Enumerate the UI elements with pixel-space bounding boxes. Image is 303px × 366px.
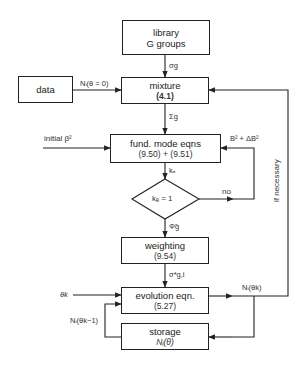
evolution-title: evolution eqn. xyxy=(135,290,194,301)
storage-box: storage Nᵢ(θ) xyxy=(121,323,209,350)
fund-title: fund. mode eqns xyxy=(130,138,201,149)
storage-ref: Nᵢ(θ) xyxy=(156,337,173,348)
edge-label-theta-k: θk xyxy=(60,290,68,299)
edge-label-sigma-g: σg xyxy=(169,61,178,70)
mixture-ref: (4.1) xyxy=(156,91,173,102)
edge-label-no: no xyxy=(222,187,231,196)
storage-title: storage xyxy=(149,326,181,337)
edge-label-ke: kₑ xyxy=(169,166,176,175)
edge-label-buckling: B² + ΔB² xyxy=(230,134,259,143)
weighting-ref: (9.54) xyxy=(154,251,176,262)
edge-label-phi: Φ̃g xyxy=(169,222,179,231)
edge-label-sigma-star: σ*g,i xyxy=(169,270,184,279)
edge-label-data: Nᵢ(θ = 0) xyxy=(80,79,108,88)
library-box: library G groups xyxy=(122,20,210,55)
decision-label: kₑ = 1 xyxy=(152,194,173,203)
fund-ref: (9.50) + (9.51) xyxy=(138,149,192,160)
library-label-1: library xyxy=(153,27,179,38)
edge-label-if-necessary: if necessary xyxy=(272,159,281,202)
edge-label-storage-back: Nᵢ(θk−1) xyxy=(70,316,98,325)
edge-label-evolution-out: Nᵢ(θk) xyxy=(242,283,262,292)
edge-label-sigma-cap: Σg xyxy=(169,112,178,121)
edge-label-initial-beta: initial β² xyxy=(44,134,72,143)
library-label-2: G groups xyxy=(146,38,185,49)
data-label: data xyxy=(36,84,55,95)
data-box: data xyxy=(18,76,73,103)
weighting-box: weighting (9.54) xyxy=(121,237,209,264)
evolution-box: evolution eqn. (5.27) xyxy=(121,287,209,314)
mixture-title: mixture xyxy=(149,80,180,91)
fund-mode-box: fund. mode eqns (9.50) + (9.51) xyxy=(110,134,221,163)
mixture-box: mixture (4.1) xyxy=(121,77,209,104)
evolution-ref: (5.27) xyxy=(154,301,176,312)
weighting-title: weighting xyxy=(145,240,185,251)
